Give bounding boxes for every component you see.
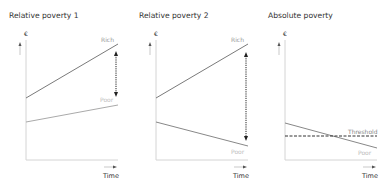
rich-label: Rich (231, 36, 244, 43)
threshold-label: Threshold (347, 128, 378, 135)
y-axis-label: € (154, 30, 158, 37)
poor-label: Poor (100, 96, 114, 103)
poor-label: Poor (358, 149, 372, 156)
y-axis-arrow-icon (278, 42, 281, 55)
x-axis-arrow-icon (363, 166, 376, 169)
x-axis-arrow-icon (104, 166, 117, 169)
y-axis-label: € (24, 30, 28, 37)
chart-relative-poverty-2: € Time Rich Poor (130, 0, 260, 188)
y-axis-label: € (283, 30, 287, 37)
poor-label: Poor (231, 148, 245, 155)
rich-line (156, 44, 248, 98)
x-axis-label: Time (102, 172, 119, 180)
gap-arrow-icon (244, 52, 248, 141)
poor-line (26, 105, 118, 122)
chart-absolute-poverty: € Time Poor Threshold (259, 0, 389, 188)
y-axis-arrow-icon (149, 42, 152, 55)
chart-relative-poverty-1: € Time Rich Poor (0, 0, 130, 188)
panel-relative-poverty-1: Relative poverty 1 € Time Rich Poor (0, 0, 130, 188)
rich-label: Rich (101, 36, 114, 43)
panel-absolute-poverty: Absolute poverty € Time Poor Threshold (259, 0, 389, 188)
y-axis-arrow-icon (19, 42, 22, 55)
gap-arrow-icon (114, 51, 118, 97)
x-axis-arrow-icon (234, 166, 247, 169)
x-axis-label: Time (232, 172, 249, 180)
panel-relative-poverty-2: Relative poverty 2 € Time Rich Poor (130, 0, 260, 188)
x-axis-label: Time (361, 172, 378, 180)
rich-line (26, 44, 118, 98)
poor-line (156, 122, 248, 146)
